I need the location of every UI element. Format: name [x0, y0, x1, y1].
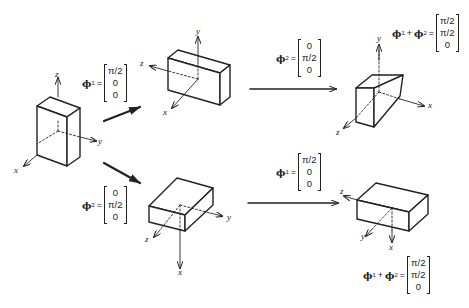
- bottom-middle-box: [149, 178, 222, 268]
- arrow-initial-to-top: [104, 107, 140, 121]
- equation-bottom-result: ϕ1 + ϕ2 = π/2 π/2 0: [363, 256, 430, 294]
- bottom-final-box: [344, 183, 428, 242]
- equation-top-phi1: ϕ1 = π/2 0 0: [82, 64, 127, 102]
- vector-matrix: π/2 0 0: [298, 153, 320, 191]
- axis-label-z: z: [55, 70, 59, 79]
- axis-label-x: x: [389, 243, 393, 252]
- arrow-initial-to-bottom: [104, 163, 140, 183]
- top-final-box: [344, 45, 424, 128]
- equation-bottom-phi1: ϕ1 = π/2 0 0: [276, 153, 321, 191]
- axis-label-x: x: [163, 108, 167, 117]
- axis-label-x: x: [14, 166, 18, 175]
- vector-matrix: 0 π/2 0: [104, 186, 126, 224]
- equation-bottom-phi2: ϕ2 = 0 π/2 0: [82, 186, 127, 224]
- top-middle-box: [150, 37, 230, 108]
- equation-top-phi2: ϕ2 = 0 π/2 0: [276, 39, 321, 77]
- axis-label-z: z: [140, 59, 144, 68]
- axis-label-y: y: [196, 27, 200, 36]
- axis-label-y: y: [227, 213, 231, 222]
- axis-label-x: x: [178, 268, 182, 277]
- vector-matrix: π/2 π/2 0: [436, 14, 458, 52]
- axis-label-y: y: [98, 137, 102, 146]
- axis-label-y: y: [377, 34, 381, 43]
- equation-top-result: ϕ1 + ϕ2 = π/2 π/2 0: [392, 14, 459, 52]
- axis-label-z: z: [336, 128, 340, 137]
- axis-label-z: z: [340, 187, 344, 196]
- axis-label-z: z: [145, 235, 149, 244]
- vector-matrix: π/2 π/2 0: [407, 256, 429, 294]
- axis-label-x: x: [428, 101, 432, 110]
- vector-matrix: 0 π/2 0: [298, 39, 320, 77]
- vector-matrix: π/2 0 0: [104, 64, 126, 102]
- axis-label-y: y: [361, 232, 365, 241]
